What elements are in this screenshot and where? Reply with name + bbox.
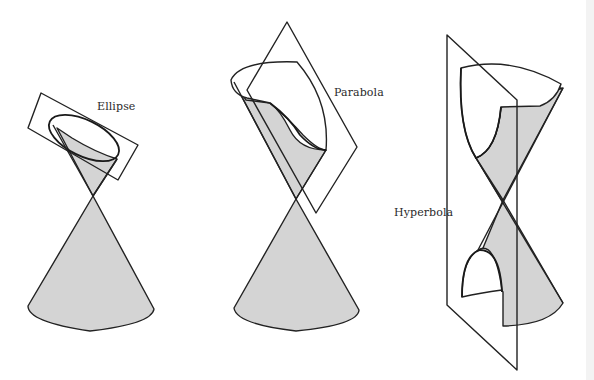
ellipse-label: Ellipse [97,100,135,113]
hyperbola-label: Hyperbola [394,206,453,219]
hyperbola-panel [447,35,563,370]
parabola-lower-cone [234,199,359,331]
ellipse-panel [28,93,154,331]
ellipse-lower-cone [28,196,154,331]
conic-sections-figure [0,0,594,380]
parabola-label: Parabola [334,86,384,99]
parabola-panel [231,22,359,331]
page-edge [586,0,594,380]
